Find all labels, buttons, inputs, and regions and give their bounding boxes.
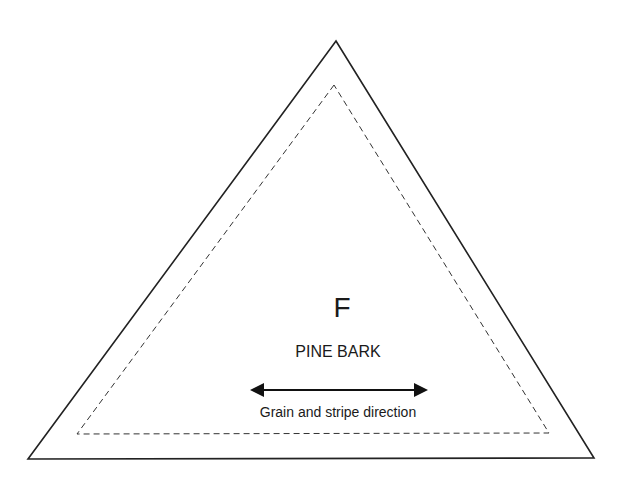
seam-line-dashed [77,85,549,434]
piece-letter: F [0,292,630,324]
double-headed-arrow-icon [250,383,428,397]
outer-cut-line [28,41,594,459]
grain-direction-caption: Grain and stripe direction [0,403,630,421]
piece-name: PINE BARK [0,342,630,362]
